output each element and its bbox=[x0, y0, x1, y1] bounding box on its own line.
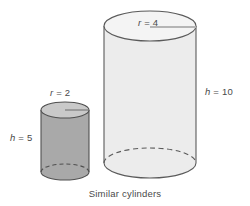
large-cylinder bbox=[104, 11, 196, 178]
small-height-equals: = bbox=[18, 132, 27, 143]
small-cylinder bbox=[41, 102, 89, 180]
large-cylinder-height-label: h = 10 bbox=[205, 86, 233, 97]
small-radius-value: 2 bbox=[65, 87, 70, 98]
small-height-value: 5 bbox=[27, 132, 32, 143]
large-cylinder-radius-label: r = 4 bbox=[138, 17, 158, 28]
large-radius-symbol: r bbox=[138, 17, 141, 28]
similar-cylinders-figure: r = 4 r = 2 h = 10 h = 5 Similar cylinde… bbox=[0, 0, 250, 206]
large-radius-value: 4 bbox=[153, 17, 158, 28]
cylinders-drawing bbox=[0, 0, 250, 206]
large-cylinder-body bbox=[104, 26, 196, 178]
small-cylinder-body bbox=[41, 110, 89, 180]
large-height-value: 10 bbox=[222, 86, 233, 97]
large-height-equals: = bbox=[213, 86, 222, 97]
small-cylinder-radius-label: r = 2 bbox=[50, 87, 70, 98]
small-cylinder-height-label: h = 5 bbox=[10, 132, 32, 143]
large-radius-equals: = bbox=[144, 17, 153, 28]
small-height-symbol: h bbox=[10, 132, 15, 143]
small-radius-equals: = bbox=[56, 87, 65, 98]
figure-caption: Similar cylinders bbox=[0, 188, 250, 199]
large-height-symbol: h bbox=[205, 86, 210, 97]
small-radius-symbol: r bbox=[50, 87, 53, 98]
